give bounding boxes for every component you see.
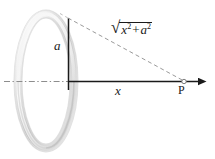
hypotenuse-label-sqrt-x2-plus-a2: √ x2+a2 — [111, 22, 152, 36]
diagram-canvas — [0, 0, 215, 159]
point-label-p: P — [178, 84, 185, 96]
ring-field-diagram: a x P √ x2+a2 — [0, 0, 215, 159]
radicand-group: x2+a2 — [119, 22, 152, 36]
distance-label-x: x — [115, 84, 121, 97]
term-a-exponent: 2 — [147, 22, 151, 31]
radius-label-a: a — [54, 39, 61, 52]
